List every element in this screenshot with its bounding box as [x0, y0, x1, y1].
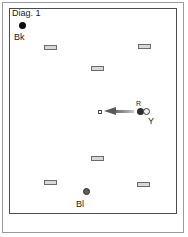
figure-caption: Diag. 1 — [12, 8, 41, 18]
token-bk-circle — [19, 22, 26, 29]
diagram-figure: Diag. 1 Bk R Y Bl — [0, 0, 188, 237]
marker-lower-center — [91, 156, 104, 161]
motion-arrow — [104, 107, 134, 116]
token-bl-circle — [83, 188, 90, 195]
token-r-label: R — [136, 100, 141, 107]
marker-bottom-left — [44, 180, 57, 185]
target-point-square — [98, 110, 102, 114]
marker-upper-center — [91, 66, 104, 71]
marker-bottom-right — [137, 182, 150, 187]
token-y-circle — [143, 108, 150, 115]
token-bl-label: Bl — [76, 200, 84, 209]
token-y-label: Y — [148, 117, 154, 126]
token-bk-label: Bk — [14, 33, 25, 42]
diagram-field-box — [9, 8, 177, 214]
marker-top-left — [44, 45, 57, 50]
motion-arrow-tail — [116, 110, 134, 113]
motion-arrow-head — [104, 107, 116, 115]
marker-top-right — [138, 44, 151, 49]
